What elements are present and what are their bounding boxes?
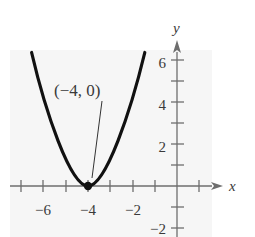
x-axis-title: x <box>228 178 236 194</box>
x-axis-arrow-icon <box>211 182 223 190</box>
y-tick-label-6: 6 <box>159 55 167 71</box>
vertex-label: (−4, 0) <box>54 81 100 100</box>
x-tick-label-neg6: −6 <box>35 202 51 218</box>
y-tick-label-4: 4 <box>159 97 167 113</box>
x-tick-label-neg2: −2 <box>125 202 141 218</box>
vertex-point <box>84 182 92 190</box>
parabola-graph: (−4, 0) −6 −4 −2 6 4 2 −2 x y <box>0 0 255 237</box>
x-tick-label-neg4: −4 <box>80 202 96 218</box>
y-tick-label-neg2: −2 <box>150 221 166 237</box>
y-tick-label-2: 2 <box>159 139 167 155</box>
y-axis-title: y <box>171 20 180 36</box>
